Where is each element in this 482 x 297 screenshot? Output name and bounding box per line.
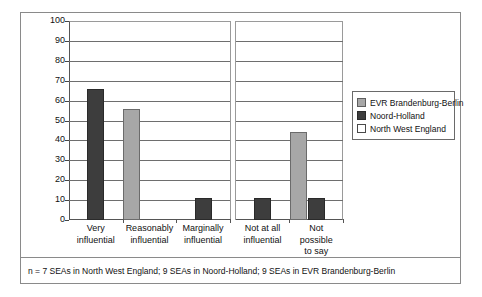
x-axis-tick (343, 219, 344, 223)
x-axis-label: Marginallyinfluential (176, 223, 230, 246)
x-axis-label: Notpossibleto say (289, 223, 343, 258)
y-axis-tick-label: 90 (43, 36, 65, 45)
bar[interactable] (290, 132, 307, 220)
bars-layer (69, 21, 343, 220)
footnote-text: n = 7 SEAs in North West England; 9 SEAs… (28, 266, 395, 276)
legend-item[interactable]: Noord-Holland (357, 109, 450, 122)
y-axis-tick-label: 80 (43, 56, 65, 65)
y-axis-tick (65, 220, 69, 221)
panel-divider (230, 21, 236, 220)
figure-container: 1009080706050403020100 % of all response… (20, 12, 461, 284)
y-axis-tick-label: 60 (43, 96, 65, 105)
footnote: n = 7 SEAs in North West England; 9 SEAs… (21, 258, 460, 283)
bar[interactable] (254, 198, 271, 220)
y-axis-tick-label: 0 (43, 215, 65, 224)
x-axis-label: Not at allinfluential (236, 223, 290, 246)
legend-label: Noord-Holland (370, 111, 425, 121)
plot-area (69, 21, 343, 220)
y-axis-tick-label: 50 (43, 116, 65, 125)
y-axis-tick-label: 40 (43, 135, 65, 144)
legend-item[interactable]: EVR Brandenburg-Berlin (357, 96, 450, 109)
y-axis-tick-label: 20 (43, 175, 65, 184)
legend-swatch-icon (357, 124, 366, 133)
legend-label: North West England (370, 124, 446, 134)
x-axis-tick (230, 219, 231, 223)
chart-legend: EVR Brandenburg-BerlinNoord-HollandNorth… (352, 91, 455, 140)
y-axis-tick-label: 10 (43, 195, 65, 204)
bar[interactable] (123, 109, 140, 220)
y-axis-tick-labels: 1009080706050403020100 (41, 21, 65, 220)
bar[interactable] (195, 198, 212, 220)
legend-item[interactable]: North West England (357, 122, 450, 135)
x-axis-label: Veryinfluential (69, 223, 123, 246)
legend-label: EVR Brandenburg-Berlin (370, 98, 464, 108)
y-axis-tick-label: 70 (43, 76, 65, 85)
x-axis-label: Reasonablyinfluential (123, 223, 177, 246)
legend-swatch-icon (357, 111, 366, 120)
bar[interactable] (308, 198, 325, 220)
y-axis-tick-label: 100 (43, 16, 65, 25)
y-axis-tick-label: 30 (43, 155, 65, 164)
legend-swatch-icon (357, 98, 366, 107)
bar[interactable] (87, 89, 104, 220)
